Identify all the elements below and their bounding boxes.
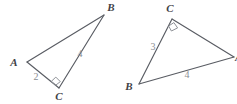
left-triangle-side-label-bc: 4	[78, 48, 83, 59]
left-triangle-right-angle-icon	[51, 77, 60, 85]
right-triangle: C B A 3 4	[124, 2, 237, 92]
left-triangle-vertex-label-A: A	[9, 56, 17, 68]
right-triangle-side-label-ba: 4	[185, 69, 190, 80]
right-triangle-vertex-label-B: B	[124, 80, 132, 92]
left-triangle-side-label-ac: 2	[34, 71, 39, 82]
figure-canvas: A B C 2 4 C B A 3 4	[0, 0, 237, 104]
right-triangle-vertex-label-C: C	[166, 2, 174, 14]
right-triangle-edge-AC	[172, 19, 234, 57]
left-triangle-edge-AB	[27, 15, 104, 62]
right-triangle-side-label-cb: 3	[151, 41, 156, 52]
right-triangle-vertex-label-A: A	[234, 51, 237, 63]
right-triangle-edge-CB	[139, 19, 172, 84]
left-triangle: A B C 2 4	[9, 1, 114, 102]
geometry-figure: A B C 2 4 C B A 3 4	[0, 0, 237, 104]
left-triangle-vertex-label-C: C	[55, 90, 63, 102]
left-triangle-vertex-label-B: B	[106, 1, 114, 13]
